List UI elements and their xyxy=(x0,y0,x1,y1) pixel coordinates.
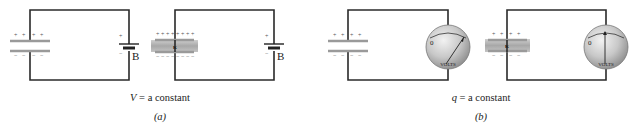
charge-sign: + xyxy=(341,32,345,38)
battery-minus-sign: − xyxy=(265,50,269,56)
charge-sign: + xyxy=(22,32,26,38)
circuit-a1: + + + + − − − − + − B xyxy=(10,10,139,80)
charge-sign: + xyxy=(32,32,36,38)
circuit-b2: κ + + + + − − − − 0 VOLTS xyxy=(485,10,628,80)
charge-sign: − xyxy=(341,52,345,58)
charge-sign: + xyxy=(350,32,354,38)
charge-sign: − xyxy=(181,53,185,59)
charge-sign: + xyxy=(500,31,504,37)
charge-sign: − xyxy=(166,53,170,59)
charge-sign: + xyxy=(358,32,362,38)
charge-sign: + xyxy=(176,31,180,37)
battery-plus-sign: + xyxy=(265,33,269,39)
meter-label: VOLTS xyxy=(598,62,614,67)
charge-sign: − xyxy=(176,53,180,59)
charge-sign: + xyxy=(492,31,496,37)
dielectric-constant-symbol: κ xyxy=(173,43,177,51)
charge-sign: − xyxy=(350,52,354,58)
charge-sign: + xyxy=(161,31,165,37)
charge-sign: − xyxy=(186,53,190,59)
panel-a-label: (a) xyxy=(154,111,167,123)
charge-sign: + xyxy=(166,31,170,37)
charge-sign: − xyxy=(358,52,362,58)
charge-sign: + xyxy=(191,31,195,37)
meter-zero-label: 0 xyxy=(430,39,434,47)
circuit-a2: κ + + + + + + + + − − − − − − − − + − B xyxy=(151,10,284,80)
panel-b-label: (b) xyxy=(475,111,488,123)
caption-b-text: = a constant xyxy=(457,92,511,103)
circuit-wire xyxy=(30,10,129,80)
charge-sign: − xyxy=(14,52,18,58)
charge-sign: − xyxy=(333,52,337,58)
capacitor-dielectric-figure: + + + + − − − − + − B κ + + + + xyxy=(0,0,638,126)
caption-b: q = a constant xyxy=(452,92,511,103)
negative-charges: − − − − − − − − xyxy=(156,53,195,59)
circuit-b1: + + + + − − − − 0 VOLTS xyxy=(328,10,470,80)
charge-sign: + xyxy=(333,32,337,38)
charge-sign: + xyxy=(40,32,44,38)
charge-sign: − xyxy=(492,52,496,58)
positive-charges: + + + + xyxy=(14,32,44,38)
caption-a-text: = a constant xyxy=(136,92,190,103)
charge-sign: + xyxy=(509,31,513,37)
charge-sign: + xyxy=(156,31,160,37)
charge-sign: − xyxy=(509,52,513,58)
charge-sign: − xyxy=(517,52,521,58)
meter-zero-label: 0 xyxy=(588,39,592,47)
charge-sign: − xyxy=(156,53,160,59)
caption-a: V = a constant xyxy=(130,92,190,103)
charge-sign: − xyxy=(32,52,36,58)
battery-minus-sign: − xyxy=(119,50,123,56)
charge-sign: − xyxy=(40,52,44,58)
charge-sign: − xyxy=(22,52,26,58)
charge-sign: − xyxy=(500,52,504,58)
meter-label: VOLTS xyxy=(440,62,456,67)
charge-sign: + xyxy=(186,31,190,37)
battery-label: B xyxy=(277,50,284,62)
charge-sign: − xyxy=(161,53,165,59)
voltmeter-icon: 0 VOLTS xyxy=(584,25,628,69)
charge-sign: + xyxy=(181,31,185,37)
charge-sign: + xyxy=(14,32,18,38)
voltmeter-icon: 0 VOLTS xyxy=(426,25,470,69)
dielectric-constant-symbol: κ xyxy=(505,42,509,50)
positive-charges: + + + + + + + + xyxy=(156,31,195,37)
charge-sign: + xyxy=(517,31,521,37)
battery-plus-sign: + xyxy=(119,33,123,39)
battery-label: B xyxy=(132,50,139,62)
negative-charges: − − − − xyxy=(14,52,44,58)
charge-sign: − xyxy=(191,53,195,59)
